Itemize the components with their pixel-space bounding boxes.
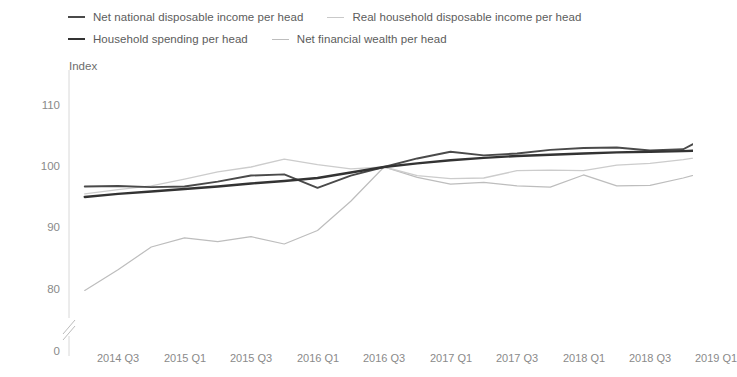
series-line-net-financial-wealth-per-head bbox=[85, 167, 693, 290]
series-line-household-spending-per-head bbox=[85, 150, 693, 197]
series-line-net-national-disposable-income-per-head bbox=[85, 132, 693, 188]
x-tick-2019-q1: 2019 Q1 bbox=[695, 352, 737, 364]
series-line-real-household-disposable-income-per-head bbox=[85, 154, 693, 194]
series-layer bbox=[85, 132, 693, 291]
